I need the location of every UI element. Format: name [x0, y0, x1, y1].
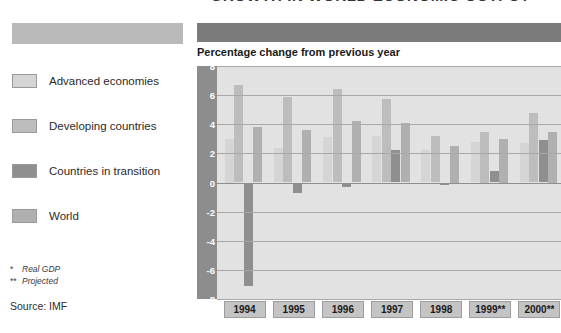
- bar: [490, 171, 499, 183]
- x-axis-year-label: 1996: [322, 301, 364, 318]
- source-label: Source: IMF: [10, 300, 190, 312]
- bar: [372, 136, 381, 183]
- bar: [480, 132, 489, 183]
- bar: [539, 140, 548, 182]
- bar: [302, 130, 311, 182]
- zero-line: [217, 183, 561, 184]
- page-title: GROWTH IN WORLD ECONOMIC OUTPUT*: [186, 0, 561, 4]
- bar: [225, 139, 234, 183]
- chart-subtitle: Percentage change from previous year: [197, 46, 400, 58]
- chart-area: 86420-2-4-6-8: [197, 66, 561, 299]
- y-axis-tick-label: 6: [210, 90, 215, 101]
- y-axis-tick-label: -2: [207, 206, 215, 217]
- bar: [323, 137, 332, 182]
- gridline: [217, 124, 561, 125]
- x-axis-year-label: 2000**: [518, 301, 560, 318]
- footnotes: *Real GDP **Projected Source: IMF: [10, 263, 190, 312]
- gridline: [217, 95, 561, 96]
- gridline: [217, 212, 561, 213]
- bar: [382, 99, 391, 182]
- left-header-band: [12, 23, 183, 44]
- footnote-mark: **: [10, 275, 22, 287]
- y-axis-tick-label: -6: [207, 264, 215, 275]
- footnote-mark: *: [10, 263, 22, 275]
- bar: [548, 132, 557, 183]
- y-axis-tick-label: -4: [207, 235, 215, 246]
- x-axis-year-label: 1998: [420, 301, 462, 318]
- y-axis-tick-label: 0: [210, 177, 215, 188]
- bar: [234, 85, 243, 183]
- legend-item: Countries in transition: [12, 148, 187, 193]
- plot-area: [217, 66, 561, 299]
- bar: [529, 113, 538, 183]
- gridline: [217, 270, 561, 271]
- legend-swatch-icon: [12, 164, 37, 178]
- legend-item-label: Developing countries: [49, 120, 156, 132]
- y-axis-tick-label: 2: [210, 148, 215, 159]
- legend-item-label: Advanced economies: [49, 75, 159, 87]
- gridline: [217, 153, 561, 154]
- gridline: [217, 299, 561, 300]
- bar: [471, 142, 480, 183]
- y-axis-tick-label: 4: [210, 119, 215, 130]
- bar: [450, 146, 459, 182]
- legend-item: World: [12, 193, 187, 238]
- gridline: [217, 66, 561, 67]
- bar: [499, 139, 508, 183]
- x-axis: 199419951996199719981999**2000**: [197, 301, 561, 319]
- bar: [253, 127, 262, 182]
- y-axis-tick-label: 8: [210, 61, 215, 72]
- bar: [391, 150, 400, 182]
- legend-swatch-icon: [12, 119, 37, 133]
- footnote-text: Real GDP: [22, 264, 60, 274]
- legend-swatch-icon: [12, 74, 37, 88]
- legend-item-label: World: [49, 210, 79, 222]
- footnote-projected: **Projected: [10, 275, 190, 287]
- bar: [520, 143, 529, 182]
- x-axis-year-label: 1997: [371, 301, 413, 318]
- footnote-real-gdp: *Real GDP: [10, 263, 190, 275]
- bar: [293, 183, 302, 193]
- gridline: [217, 241, 561, 242]
- right-header-band: [197, 23, 561, 42]
- bar: [421, 150, 430, 182]
- x-axis-year-label: 1995: [273, 301, 315, 318]
- bar: [352, 121, 361, 182]
- chart-legend: Advanced economiesDeveloping countriesCo…: [12, 58, 187, 238]
- legend-item: Developing countries: [12, 103, 187, 148]
- legend-item-label: Countries in transition: [49, 165, 160, 177]
- x-axis-year-label: 1994: [224, 301, 266, 318]
- legend-item: Advanced economies: [12, 58, 187, 103]
- x-axis-year-label: 1999**: [469, 301, 511, 318]
- bar: [283, 97, 292, 183]
- bar: [431, 136, 440, 183]
- legend-swatch-icon: [12, 209, 37, 223]
- bar: [333, 89, 342, 182]
- footnote-text: Projected: [22, 276, 58, 286]
- y-axis: 86420-2-4-6-8: [197, 66, 217, 299]
